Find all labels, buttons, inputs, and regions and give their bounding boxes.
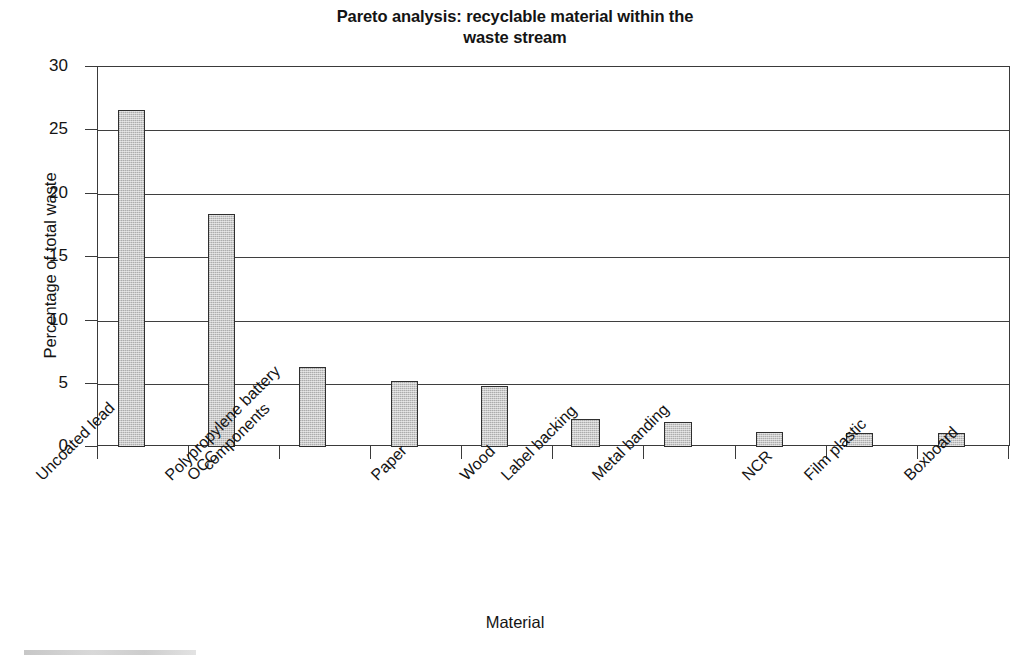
x-tick-label-ncr: NCR [738,446,776,484]
x-tick-label-paper-line-1: Paper [368,442,410,484]
x-tick-label-polypropylene-line-2: components [174,375,297,498]
x-tick-label-uncoated-lead: Uncoated lead [32,398,118,484]
x-tick-label-ncr-line-1: NCR [739,447,776,484]
x-tick-label-polypropylene-battery-components: Polypropylene battery components [161,362,297,498]
x-tick-label-polypropylene-line-1: Polypropylene battery [162,362,283,483]
x-axis-tick-labels: Uncoated lead OCC Polypropylene battery … [0,0,1030,658]
x-tick-label-label-backing-line-1: Label backing [498,402,580,484]
x-tick-label-film-plastic: Film plastic [800,414,870,484]
x-tick-label-boxboard: Boxboard [900,423,962,485]
x-tick-label-wood: Wood [456,442,499,485]
x-axis-title: Material [0,613,1030,632]
x-tick-label-metal-banding-line-1: Metal banding [589,401,672,484]
x-tick-label-uncoated-lead-line-1: Uncoated lead [33,399,118,484]
x-tick-label-boxboard-line-1: Boxboard [901,423,961,483]
x-tick-label-metal-banding: Metal banding [588,400,673,485]
x-tick-label-paper: Paper [367,441,411,485]
x-tick-label-label-backing: Label backing [497,401,580,484]
x-tick-label-wood-line-1: Wood [457,442,498,483]
scan-artifact [24,650,196,655]
x-tick-label-film-plastic-line-1: Film plastic [801,415,870,484]
